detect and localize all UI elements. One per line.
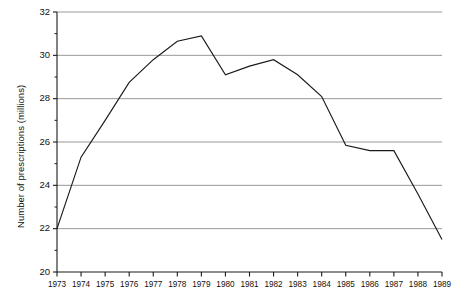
y-major-ticks-group <box>53 12 57 272</box>
x-tick-label-1986: 1986 <box>357 280 383 289</box>
x-tick-label-1974: 1974 <box>68 280 94 289</box>
x-tick-label-1978: 1978 <box>164 280 190 289</box>
x-tick-label-1989: 1989 <box>429 280 455 289</box>
y-tick-label-26: 26 <box>30 136 50 147</box>
x-tick-label-1987: 1987 <box>381 280 407 289</box>
data-series-line <box>57 36 442 240</box>
y-tick-label-28: 28 <box>30 92 50 103</box>
x-tick-label-1988: 1988 <box>405 280 431 289</box>
y-tick-label-30: 30 <box>30 49 50 60</box>
gridlines-group <box>57 12 442 229</box>
x-tick-label-1983: 1983 <box>285 280 311 289</box>
x-tick-label-1973: 1973 <box>44 280 70 289</box>
y-tick-label-24: 24 <box>30 179 50 190</box>
x-tick-label-1985: 1985 <box>333 280 359 289</box>
x-tick-label-1977: 1977 <box>140 280 166 289</box>
x-tick-label-1976: 1976 <box>116 280 142 289</box>
x-tick-label-1980: 1980 <box>212 280 238 289</box>
x-tick-label-1984: 1984 <box>309 280 335 289</box>
x-tick-label-1975: 1975 <box>92 280 118 289</box>
y-tick-label-22: 22 <box>30 222 50 233</box>
y-tick-label-20: 20 <box>30 266 50 277</box>
x-tick-label-1981: 1981 <box>237 280 263 289</box>
x-tick-label-1979: 1979 <box>188 280 214 289</box>
x-ticks-group <box>57 272 442 277</box>
x-tick-label-1982: 1982 <box>261 280 287 289</box>
y-tick-label-32: 32 <box>30 6 50 17</box>
